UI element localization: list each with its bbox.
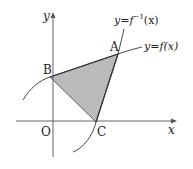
label-eq: = [150,40,159,53]
y-axis-arrow-icon [51,12,56,18]
origin-label: O [41,125,51,139]
point-c-label: C [97,125,106,139]
label-arg: (x) [144,14,159,27]
curve-f-label: y=f(x) [143,40,178,53]
label-sup: −1 [134,13,144,21]
label-fx: f(x) [158,40,178,53]
point-b-label: B [43,63,52,77]
point-a-label: A [109,40,119,54]
curve-f-inverse-label: y=f−1(x) [113,13,159,27]
x-axis-label: x [168,123,175,137]
shaded-triangle-abc [50,54,118,122]
label-eq: = [120,14,129,27]
graph-diagram: y x O A B C y=f−1(x) y=f(x) [0,0,193,169]
y-axis-label: y [42,9,50,23]
